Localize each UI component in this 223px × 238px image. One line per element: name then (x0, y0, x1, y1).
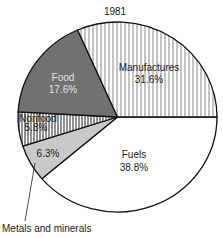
fuels-value: 38.8% (120, 162, 148, 173)
food-value: 17.6% (49, 84, 77, 95)
metals-value: 6.3% (37, 148, 60, 159)
pie-chart: 1981 Manufactures 31.6% Food 17.6% Nonfo… (0, 0, 223, 238)
food-label: Food (52, 72, 75, 83)
nonfood-value: 5.8% (25, 122, 48, 133)
chart-title: 1981 (104, 6, 127, 17)
metals-callout-line (25, 163, 35, 221)
metals-callout-label: Metals and minerals (2, 223, 91, 234)
fuels-label: Fuels (122, 149, 146, 160)
manufactures-value: 31.6% (135, 74, 163, 85)
manufactures-label: Manufactures (119, 62, 180, 73)
